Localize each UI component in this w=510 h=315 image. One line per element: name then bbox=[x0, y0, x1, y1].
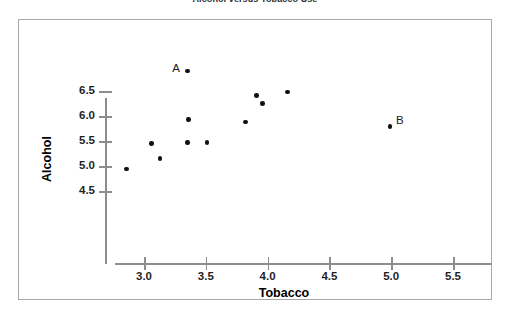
point-label-a: A bbox=[172, 62, 180, 74]
x-tick bbox=[329, 257, 331, 270]
y-tick bbox=[99, 166, 112, 168]
data-point bbox=[158, 156, 163, 161]
scatter-plot-figure: Alcohol versus Tobacco Use 4.55.05.56.06… bbox=[0, 0, 510, 315]
data-point bbox=[205, 140, 210, 145]
y-tick-label: 5.0 bbox=[55, 159, 95, 171]
chart-title: Alcohol versus Tobacco Use bbox=[0, 0, 510, 2]
x-tick bbox=[268, 257, 270, 270]
y-tick bbox=[99, 116, 112, 118]
y-tick bbox=[99, 91, 112, 93]
x-tick bbox=[391, 257, 393, 270]
x-tick-label: 4.0 bbox=[248, 270, 288, 282]
x-axis-line bbox=[115, 263, 492, 265]
data-point bbox=[186, 117, 191, 122]
x-tick-label: 3.0 bbox=[124, 270, 164, 282]
x-tick bbox=[144, 257, 146, 270]
y-tick bbox=[99, 141, 112, 143]
data-point bbox=[260, 101, 265, 106]
x-tick-label: 5.5 bbox=[433, 270, 473, 282]
x-tick-label: 3.5 bbox=[186, 270, 226, 282]
data-point bbox=[254, 93, 259, 98]
y-axis-title: Alcohol bbox=[40, 124, 54, 194]
data-point bbox=[388, 124, 393, 129]
x-axis-title: Tobacco bbox=[224, 286, 344, 300]
plot-frame: 4.55.05.56.06.5 3.03.54.04.55.05.5 AB Al… bbox=[18, 19, 492, 300]
y-tick-label: 5.5 bbox=[55, 134, 95, 146]
data-point bbox=[185, 69, 190, 74]
data-point bbox=[124, 167, 129, 172]
x-tick bbox=[453, 257, 455, 270]
y-tick bbox=[99, 191, 112, 193]
point-label-b: B bbox=[396, 114, 404, 126]
y-tick-label: 4.5 bbox=[55, 184, 95, 196]
y-axis-line bbox=[105, 98, 107, 264]
data-point bbox=[243, 120, 248, 125]
y-tick-label: 6.0 bbox=[55, 109, 95, 121]
data-point bbox=[285, 90, 290, 95]
x-tick bbox=[206, 257, 208, 270]
x-tick-label: 4.5 bbox=[309, 270, 349, 282]
y-tick-label: 6.5 bbox=[55, 84, 95, 96]
data-point bbox=[149, 141, 154, 146]
data-point bbox=[185, 140, 190, 145]
x-tick-label: 5.0 bbox=[371, 270, 411, 282]
